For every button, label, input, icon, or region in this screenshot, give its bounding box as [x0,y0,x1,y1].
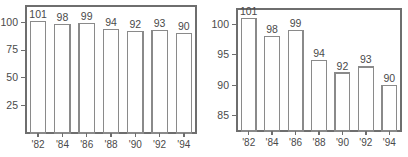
y-tick-label: 100 [0,16,18,28]
x-tick-label: '82 [242,137,255,148]
x-tick-label: '92 [359,137,372,148]
x-tick-label: '90 [129,139,142,150]
bar[interactable] [55,25,70,133]
bar[interactable] [288,30,303,131]
x-tick-label: '94 [177,139,190,150]
figure-container: 255075100101'8298'8499'8694'8892'9093'92… [0,0,408,157]
chart-left: 255075100101'8298'8499'8694'8892'9093'92… [0,0,204,157]
y-tick-label: 100 [211,18,229,30]
x-tick-label: '86 [289,137,302,148]
x-tick-label: '86 [80,139,93,150]
bar-value-label: 93 [154,17,166,29]
bar[interactable] [265,36,280,131]
y-tick-label: 85 [217,109,229,121]
bar-value-label: 92 [129,18,141,30]
bar[interactable] [382,85,397,131]
bar[interactable] [241,18,256,131]
x-tick-label: '88 [312,137,325,148]
bar[interactable] [176,34,191,133]
chart-right-canvas: 859095100101'8298'8499'8694'8892'9093'92… [204,0,408,157]
y-tick-label: 75 [6,43,18,55]
x-tick-label: '92 [153,139,166,150]
bar-value-label: 99 [81,10,93,22]
bar-value-label: 90 [383,72,395,84]
bar[interactable] [79,24,94,133]
bar-value-label: 98 [57,11,69,23]
y-tick-label: 25 [6,99,18,111]
bar[interactable] [30,21,45,133]
x-tick-label: '84 [56,139,69,150]
bar-value-label: 94 [105,16,117,28]
chart-left-canvas: 255075100101'8298'8499'8694'8892'9093'92… [0,0,204,157]
bar[interactable] [152,30,167,133]
y-tick-label: 90 [217,79,229,91]
y-tick-label: 50 [6,71,18,83]
chart-right: 859095100101'8298'8499'8694'8892'9093'92… [204,0,408,157]
bar[interactable] [358,67,373,131]
bar-value-label: 92 [337,60,349,72]
bar[interactable] [335,73,350,131]
bar-value-label: 99 [290,17,302,29]
bar-value-label: 101 [29,8,47,20]
bar[interactable] [103,29,118,133]
bar-value-label: 93 [360,53,372,65]
bar-value-label: 90 [178,20,190,32]
x-tick-label: '82 [32,139,45,150]
x-tick-label: '88 [104,139,117,150]
bar-value-label: 101 [240,5,258,17]
x-tick-label: '94 [383,137,396,148]
y-tick-label: 95 [217,48,229,60]
bar[interactable] [128,31,143,133]
bar-value-label: 98 [266,23,278,35]
bar[interactable] [312,61,327,131]
x-tick-label: '84 [266,137,279,148]
bar-value-label: 94 [313,47,325,59]
x-tick-label: '90 [336,137,349,148]
